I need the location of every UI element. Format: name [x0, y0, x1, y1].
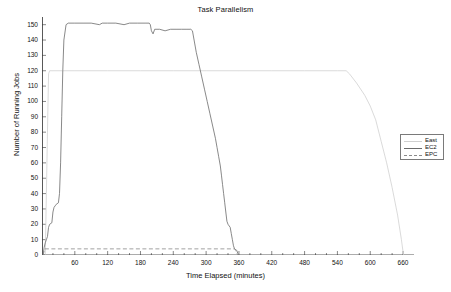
y-tick-50: 50	[16, 174, 38, 181]
y-tick-140: 140	[16, 36, 38, 43]
legend-swatch-ec2	[403, 145, 423, 151]
x-tick-360: 360	[226, 259, 252, 266]
plot-area	[42, 17, 414, 255]
y-tick-30: 30	[16, 205, 38, 212]
legend-label-epc: EPC	[423, 151, 437, 158]
legend-item: EPC	[403, 151, 441, 158]
series-line-east	[45, 71, 403, 255]
y-tick-110: 110	[16, 82, 38, 89]
y-tick-10: 10	[16, 236, 38, 243]
x-tick-540: 540	[324, 259, 350, 266]
chart-title: Task Parallelism	[0, 5, 451, 14]
legend-item: EC2	[403, 144, 441, 151]
y-tick-20: 20	[16, 220, 38, 227]
x-tick-120: 120	[95, 259, 121, 266]
x-tick-240: 240	[160, 259, 186, 266]
x-tick-60: 60	[62, 259, 88, 266]
y-tick-90: 90	[16, 113, 38, 120]
y-tick-60: 60	[16, 159, 38, 166]
chart-root: Task Parallelism Number of Running Jobs …	[0, 0, 451, 292]
x-tick-600: 600	[357, 259, 383, 266]
legend-label-east: East	[423, 137, 437, 144]
series-line-epc	[43, 249, 240, 255]
y-tick-150: 150	[16, 21, 38, 28]
y-tick-80: 80	[16, 128, 38, 135]
legend-swatch-east	[403, 138, 423, 144]
legend-label-ec2: EC2	[423, 144, 437, 151]
x-tick-420: 420	[259, 259, 285, 266]
chart-svg	[42, 17, 414, 255]
y-tick-0: 0	[16, 251, 38, 258]
y-tick-130: 130	[16, 51, 38, 58]
axis-lines	[43, 17, 415, 255]
legend-item: East	[403, 137, 441, 144]
x-axis-label: Time Elapsed (minutes)	[0, 271, 451, 280]
x-tick-300: 300	[193, 259, 219, 266]
y-tick-40: 40	[16, 190, 38, 197]
series-line-ec2	[43, 23, 239, 255]
y-tick-70: 70	[16, 144, 38, 151]
y-tick-100: 100	[16, 97, 38, 104]
x-tick-480: 480	[292, 259, 318, 266]
legend-swatch-epc	[403, 152, 423, 158]
x-tick-180: 180	[127, 259, 153, 266]
chart-legend: East EC2 EPC	[400, 134, 444, 160]
y-tick-120: 120	[16, 67, 38, 74]
x-tick-660: 660	[390, 259, 416, 266]
